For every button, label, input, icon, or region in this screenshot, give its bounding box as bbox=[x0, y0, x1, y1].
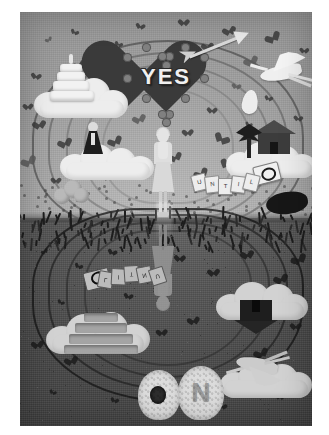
dirt-fleck bbox=[227, 198, 230, 201]
dirt-fleck bbox=[20, 184, 23, 187]
card-banner: UNTIL bbox=[192, 172, 270, 198]
ground-speck bbox=[285, 238, 286, 239]
ground-speck bbox=[280, 419, 281, 420]
letter-n-glyph: N bbox=[188, 378, 214, 406]
heart-scallop-dot bbox=[162, 118, 171, 127]
grass-blade bbox=[43, 212, 45, 225]
ground-speck bbox=[167, 310, 168, 311]
dirt-fleck bbox=[245, 209, 248, 212]
ground-speck bbox=[95, 359, 96, 360]
ground-speck bbox=[277, 260, 278, 261]
dirt-fleck bbox=[311, 206, 312, 209]
ground-speck bbox=[64, 240, 65, 241]
ground-speck bbox=[251, 248, 252, 249]
ground-speck bbox=[284, 252, 285, 253]
dirt-fleck bbox=[103, 185, 106, 188]
ground-speck bbox=[51, 236, 52, 237]
dirt-fleck bbox=[113, 201, 116, 204]
ground-speck bbox=[302, 235, 303, 236]
ground-speck bbox=[126, 229, 127, 230]
house-reflection bbox=[234, 300, 278, 334]
ground-speck bbox=[50, 247, 51, 248]
groom-shirt bbox=[91, 133, 95, 145]
ground-speck bbox=[49, 369, 50, 370]
ground-speck bbox=[241, 222, 242, 223]
ground-speck bbox=[94, 230, 95, 231]
ground-speck bbox=[36, 251, 37, 252]
ground-speck bbox=[53, 371, 54, 372]
grass-blade bbox=[23, 214, 25, 220]
heart-confetti-piece bbox=[35, 341, 46, 351]
dirt-fleck bbox=[193, 201, 196, 204]
ground-speck bbox=[141, 358, 142, 359]
ground-speck bbox=[191, 240, 192, 241]
house-door bbox=[270, 142, 278, 154]
letter-o-hole bbox=[150, 386, 166, 404]
dirt-fleck bbox=[45, 193, 48, 196]
bride-arms bbox=[158, 141, 168, 159]
ground-speck bbox=[42, 420, 43, 421]
dirt-fleck bbox=[105, 197, 108, 200]
ground-speck bbox=[224, 408, 225, 409]
ground-speck bbox=[53, 390, 54, 391]
ground-speck bbox=[87, 391, 88, 392]
dirt-fleck bbox=[245, 205, 248, 208]
ground-speck bbox=[141, 245, 142, 246]
banner-card-reflection: U bbox=[148, 266, 168, 287]
cake-topper bbox=[69, 54, 73, 64]
dirt-fleck bbox=[197, 206, 200, 209]
ground-speck bbox=[66, 359, 67, 360]
grass-blade bbox=[69, 222, 72, 228]
ground-speck bbox=[84, 252, 85, 253]
card-banner-reflection: LITNU bbox=[97, 259, 177, 290]
ground-speck bbox=[49, 412, 50, 413]
ground-speck bbox=[95, 298, 96, 299]
ground-speck bbox=[70, 410, 71, 411]
ground-speck bbox=[53, 241, 54, 242]
dirt-fleck bbox=[128, 198, 131, 201]
ground-speck bbox=[134, 242, 135, 243]
grass-blade bbox=[210, 218, 212, 224]
arrow-head bbox=[233, 26, 251, 44]
ground-speck bbox=[21, 336, 22, 337]
ground-speck bbox=[204, 353, 205, 354]
ground-speck bbox=[295, 264, 296, 265]
heart-confetti-piece bbox=[234, 84, 242, 91]
dirt-fleck bbox=[36, 205, 39, 208]
heart-scallop-dot bbox=[123, 53, 132, 62]
bride-reflection-head bbox=[157, 296, 169, 310]
ground-speck bbox=[211, 298, 212, 299]
ground-speck bbox=[207, 263, 208, 264]
ground-speck bbox=[203, 361, 204, 362]
house-reflection-roof bbox=[234, 320, 278, 334]
dirt-fleck bbox=[138, 184, 141, 187]
ground-speck bbox=[43, 361, 44, 362]
ground-speck bbox=[127, 413, 128, 414]
ground-speck bbox=[123, 260, 124, 261]
ground-speck bbox=[54, 243, 55, 244]
ground-speck bbox=[35, 266, 36, 267]
ground-speck bbox=[225, 267, 226, 268]
ground-speck bbox=[150, 311, 151, 312]
ground-speck bbox=[102, 365, 103, 366]
ground-speck bbox=[120, 378, 121, 379]
ground-speck bbox=[135, 389, 136, 390]
dirt-fleck bbox=[62, 209, 65, 212]
ground-speck bbox=[52, 301, 53, 302]
ground-speck bbox=[200, 335, 201, 336]
grass-blade bbox=[124, 210, 126, 223]
stork-reflection bbox=[224, 342, 294, 388]
ground-speck bbox=[126, 240, 127, 241]
ground-speck bbox=[203, 240, 204, 241]
heart-confetti-piece bbox=[26, 104, 34, 111]
ground-speck bbox=[52, 242, 53, 243]
ground-speck bbox=[289, 272, 290, 273]
ground-speck bbox=[218, 250, 219, 251]
bride-skirt bbox=[152, 162, 174, 192]
ground-speck bbox=[248, 251, 249, 252]
dirt-fleck bbox=[304, 213, 307, 216]
ground-speck bbox=[147, 362, 148, 363]
dirt-fleck bbox=[37, 196, 40, 199]
no-letters: N bbox=[138, 364, 224, 426]
cake-tier-4 bbox=[50, 91, 94, 101]
